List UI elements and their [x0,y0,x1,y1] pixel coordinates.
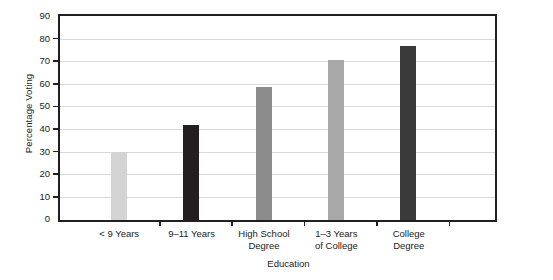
x-axis-category-line: Degree [363,240,455,252]
x-axis-title: Education [0,258,553,269]
bar [256,87,272,220]
bar [328,60,344,220]
y-axis-tick-label: 60 [20,79,50,89]
gridline [60,106,495,107]
y-axis-tick-label: 70 [20,56,50,66]
y-axis-tick [53,60,60,62]
x-axis-title-text: Education [267,258,309,269]
y-axis-tick [53,83,60,85]
plot-inner: 9080706050403020100 [60,16,495,220]
x-axis-tick [159,220,161,226]
y-axis-tick [53,173,60,175]
bar-chart-figure: Percentage Voting 9080706050403020100 Ed… [0,0,553,280]
x-axis-category-line: College [363,228,455,240]
y-axis-tick [53,128,60,130]
y-axis-tick-label: 50 [20,101,50,111]
y-axis-tick-label: 10 [20,192,50,202]
y-axis-tick [53,196,60,198]
y-axis-tick-label: 90 [20,11,50,21]
y-axis-tick-label: 30 [20,147,50,157]
y-axis-tick-label: 40 [20,124,50,134]
y-axis-tick [53,151,60,153]
x-axis-tick [449,220,451,226]
x-axis-category-label: CollegeDegree [363,228,455,251]
y-axis-tick-label: 80 [20,34,50,44]
x-axis-tick [304,220,306,226]
gridline [60,129,495,130]
bar [111,152,127,220]
bar [183,125,199,220]
gridline [60,84,495,85]
y-axis-tick-label: 0 [20,214,50,224]
y-axis-tick [53,106,60,108]
y-axis-tick-label: 20 [20,169,50,179]
x-axis-tick [231,220,233,226]
plot-area: 9080706050403020100 [58,14,497,222]
gridline [60,61,495,62]
gridline [60,39,495,40]
bar [400,46,416,220]
x-axis-tick [376,220,378,226]
y-axis-tick [53,38,60,40]
